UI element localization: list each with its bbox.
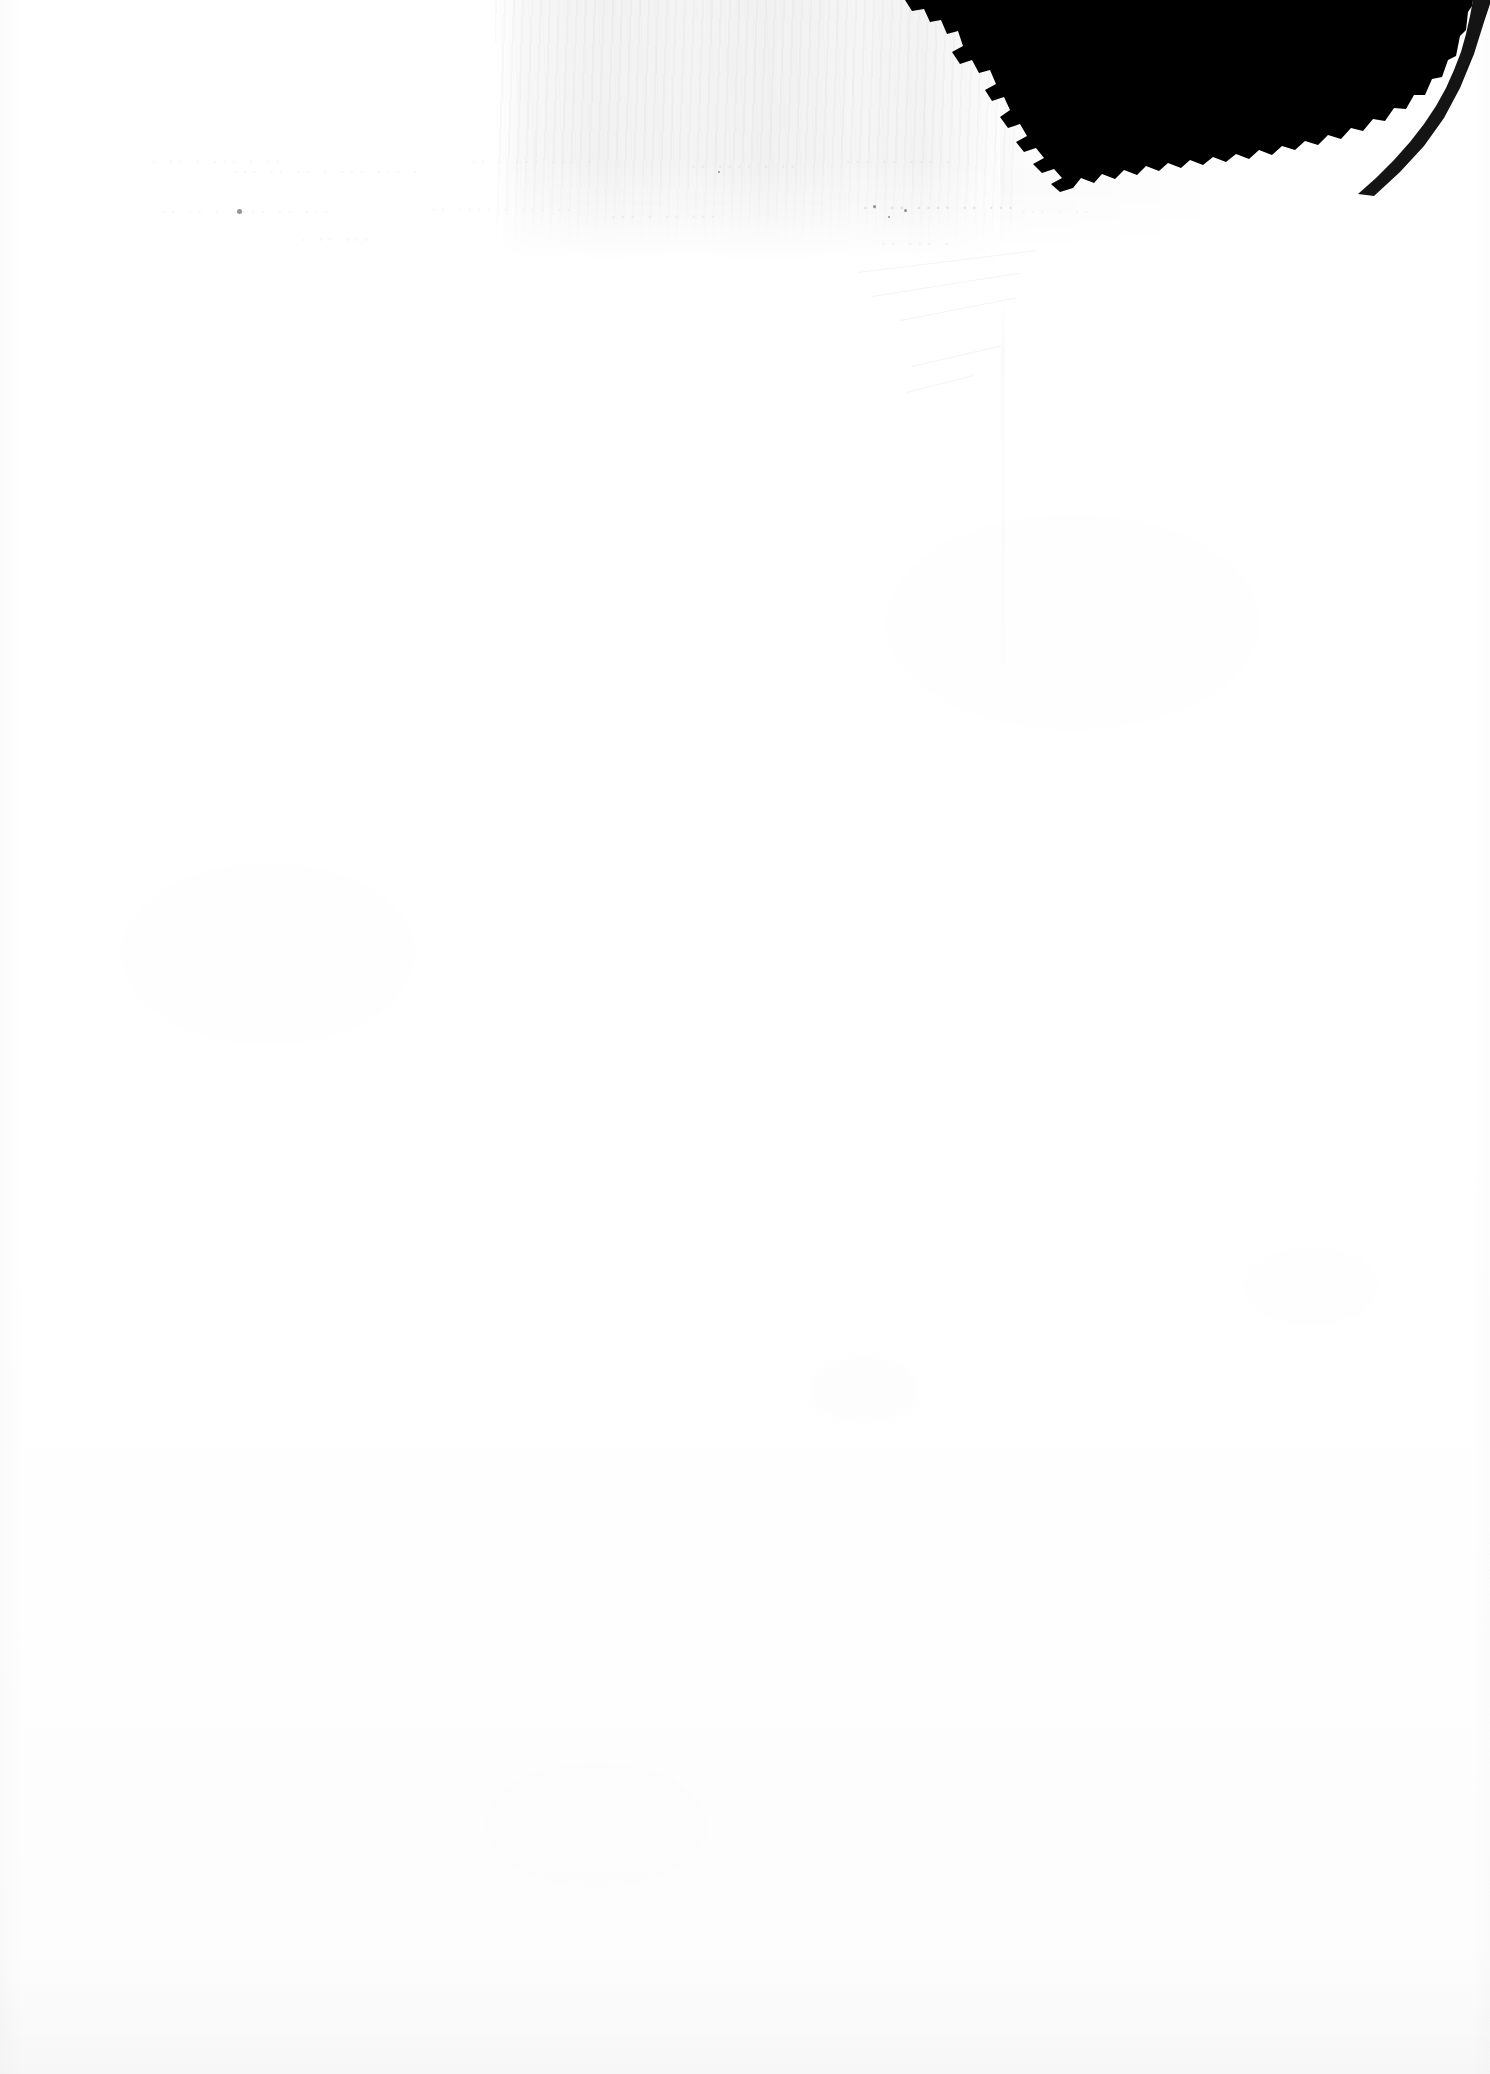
ghost-text-trace: ··· · ·· ···	[610, 205, 719, 230]
ink-speck	[888, 216, 890, 218]
scan-noise-overlay	[0, 0, 1490, 2074]
ink-speck	[718, 171, 720, 173]
ink-speck	[237, 209, 242, 214]
ghost-text-trace: ··· ·· ··· ·	[845, 150, 954, 175]
ghost-text-trace: ·· · ··· ··· ·	[470, 150, 596, 175]
ghost-text-trace: ·· ··· ·	[880, 232, 952, 257]
ghost-text-trace: · ·· ··· ·	[300, 228, 390, 253]
ink-speck	[873, 205, 876, 208]
ghost-text-trace: ··· · ··	[1020, 200, 1092, 225]
ghost-text-trace: ·· ···· · ··· ··	[430, 198, 575, 223]
vertical-crease-artifact	[1002, 300, 1004, 720]
ghost-text-trace: ·· ·· · ···· ·· ···	[160, 200, 332, 225]
ghost-text-trace: ·· ···· · ··	[690, 155, 799, 180]
ink-speck	[904, 209, 907, 212]
scanned-page: · ·· · ··· · ·· ··· ·· ·· · ··· ··· ··· …	[0, 0, 1490, 2074]
ghost-text-trace: ·· ·· ···· ·· ···	[862, 196, 1016, 221]
ghost-text-trace: ··· ·· ·· · ··· ··· ·	[232, 160, 421, 185]
